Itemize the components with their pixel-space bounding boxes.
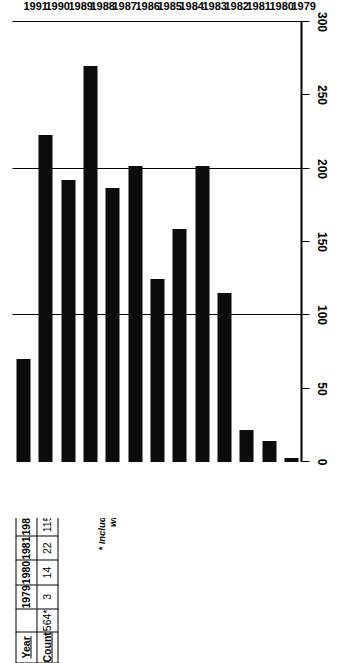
category-label: 1984	[179, 0, 203, 12]
year-count-table: Year197919801981198219831984198519861987…	[14, 518, 58, 663]
axis-tick-label: 250	[314, 85, 328, 105]
axis-tick	[302, 388, 309, 389]
category-label: 1989	[68, 0, 92, 12]
table-row: Year197919801981198219831984198519861987…	[15, 518, 36, 663]
table-cell-count: 22	[36, 535, 57, 559]
table-cell-year: 1982	[15, 518, 36, 535]
table-cell-year	[15, 609, 36, 632]
axis-tick	[302, 168, 309, 169]
category-label: 1990	[45, 0, 69, 12]
category-label: 1979	[291, 0, 315, 12]
bar	[38, 135, 52, 462]
category-label: 1981	[246, 0, 270, 12]
category-label: 1987	[112, 0, 136, 12]
table-cell-year: 1979	[15, 584, 36, 608]
category-label: 1980	[269, 0, 293, 12]
table-footnote: * Includes all documents without a date	[96, 518, 118, 663]
table-cell-count: 14	[36, 560, 57, 584]
bar	[150, 279, 164, 462]
bar	[128, 166, 142, 462]
axis-tick	[302, 314, 309, 315]
category-label: 1985	[157, 0, 181, 12]
bar-series	[12, 22, 302, 462]
axis-tick-label: 0	[314, 459, 328, 466]
category-label: 1991	[23, 0, 47, 12]
category-label: 1988	[90, 0, 114, 12]
table-row: Count564*3142211520215912520218727019222…	[36, 518, 57, 663]
bar	[217, 293, 231, 462]
table-cell-count: 564*	[36, 609, 57, 632]
chart-rotated-frame: 050100150200250300 197919801981198219831…	[0, 0, 337, 520]
axis-tick-label: 50	[314, 382, 328, 395]
axis-tick	[302, 461, 309, 462]
table-header-cell: Count	[36, 631, 57, 662]
axis-tick	[302, 241, 309, 242]
table-cell-count: 3	[36, 584, 57, 608]
bar	[61, 180, 75, 462]
bar	[172, 229, 186, 462]
table-cell-year: 1980	[15, 560, 36, 584]
table-cell-count: 115	[36, 518, 57, 535]
bar	[262, 441, 276, 462]
plot-area	[12, 22, 302, 462]
table-rotated-frame: Year197919801981198219831984198519861987…	[0, 518, 337, 663]
bar	[105, 188, 119, 462]
axis-tick	[302, 21, 309, 22]
axis-tick-label: 100	[314, 305, 328, 325]
data-table-region: Year197919801981198219831984198519861987…	[0, 518, 337, 663]
axis-tick-label: 300	[314, 12, 328, 32]
bar-chart: 050100150200250300 197919801981198219831…	[0, 0, 337, 520]
table-cell-year: 1981	[15, 535, 36, 559]
axis-tick	[302, 94, 309, 95]
axis-tick-label: 150	[314, 232, 328, 252]
figure-page: 050100150200250300 197919801981198219831…	[0, 0, 337, 663]
bar	[16, 359, 30, 462]
category-label: 1986	[135, 0, 159, 12]
bar	[284, 458, 298, 462]
axis-tick-label: 200	[314, 159, 328, 179]
category-label: 1982	[224, 0, 248, 12]
table-header-cell: Year	[15, 631, 36, 662]
bar	[195, 166, 209, 462]
category-label: 1983	[202, 0, 226, 12]
bar	[239, 430, 253, 462]
bar	[83, 66, 97, 462]
